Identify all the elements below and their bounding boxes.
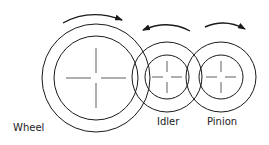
pinion-gear	[186, 42, 256, 112]
idler-rotation-arrow-icon	[143, 25, 190, 31]
idler-label: Idler	[157, 116, 179, 127]
wheel-gear	[42, 24, 150, 132]
idler-gear	[132, 42, 202, 112]
wheel-label: Wheel	[13, 122, 44, 133]
pinion-rotation-arrow-icon	[205, 23, 245, 29]
wheel-rotation-arrow-icon	[63, 15, 122, 23]
pinion-label: Pinion	[207, 116, 237, 127]
